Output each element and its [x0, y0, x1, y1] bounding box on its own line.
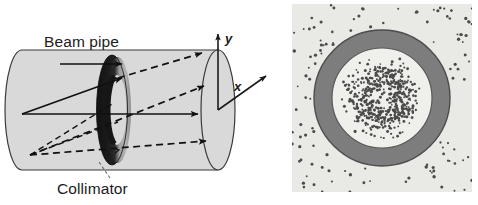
particle-dot	[399, 65, 401, 67]
particle-dot	[397, 125, 399, 127]
particle-dot	[399, 112, 402, 115]
particle-dot	[406, 108, 409, 111]
particle-dot	[392, 100, 395, 103]
particle-dot	[303, 186, 306, 189]
particle-dot	[354, 93, 357, 96]
particle-dot	[403, 91, 405, 93]
particle-dot	[464, 53, 467, 56]
particle-dot	[396, 94, 398, 96]
particle-dot	[369, 180, 371, 182]
particle-dot	[399, 69, 401, 71]
particle-dot	[357, 84, 360, 87]
particle-dot	[457, 68, 460, 71]
particle-dot	[373, 69, 375, 71]
particle-dot	[358, 116, 360, 118]
particle-dot	[320, 40, 322, 42]
particle-dot	[411, 104, 414, 107]
particle-dot	[356, 95, 359, 98]
particle-dot	[353, 18, 355, 20]
particle-dot	[355, 81, 357, 83]
particle-dot	[369, 77, 371, 79]
particle-dot	[391, 117, 393, 119]
particle-dot	[383, 107, 385, 109]
particle-dot	[375, 72, 378, 75]
particle-dot	[457, 38, 460, 41]
particle-dot	[331, 180, 333, 182]
particle-dot	[380, 107, 383, 110]
particle-dot	[396, 98, 398, 100]
particle-dot	[403, 113, 405, 115]
particle-dot	[399, 122, 401, 124]
particle-dot	[387, 83, 389, 85]
particle-dot	[311, 127, 313, 129]
particle-dot	[391, 104, 393, 106]
particle-dot	[371, 116, 373, 118]
particle-dot	[382, 22, 384, 24]
particle-dot	[293, 49, 296, 52]
particle-dot	[363, 81, 365, 83]
particle-dot	[407, 176, 410, 179]
particle-dot	[367, 73, 369, 75]
particle-dot	[385, 110, 387, 112]
particle-dot	[453, 148, 455, 150]
particle-dot	[312, 130, 315, 133]
particle-dot	[408, 106, 410, 108]
particle-dot	[398, 57, 401, 60]
particle-dot	[311, 163, 314, 166]
particle-dot	[367, 123, 369, 125]
particle-dot	[415, 109, 417, 111]
particle-dot	[414, 99, 416, 101]
particle-dot	[382, 73, 384, 75]
particle-dot	[402, 131, 404, 133]
particle-dot	[369, 71, 371, 73]
particle-dot	[414, 95, 417, 98]
particle-dot	[295, 108, 298, 111]
particle-dot	[395, 81, 398, 84]
particle-dot	[325, 153, 328, 156]
particle-dot	[407, 76, 409, 78]
particle-dot	[402, 120, 405, 123]
particle-dot	[432, 170, 435, 173]
particle-dot	[372, 87, 375, 90]
particle-dot	[387, 111, 389, 113]
particle-dot	[343, 105, 346, 108]
particle-dot	[349, 29, 352, 32]
particle-dot	[348, 100, 351, 103]
particle-dot	[320, 43, 323, 46]
particle-dot	[308, 67, 310, 69]
particle-dot	[429, 170, 431, 172]
particle-dot	[351, 90, 353, 92]
particle-dot	[464, 17, 467, 20]
particle-dot	[359, 62, 361, 64]
particle-dot	[387, 109, 389, 111]
particle-dot	[454, 63, 457, 66]
particle-dot	[415, 10, 418, 13]
particle-dot	[439, 141, 441, 143]
particle-dot	[330, 4, 332, 6]
particle-dot	[379, 112, 382, 115]
particle-dot	[372, 101, 374, 103]
particle-dot	[397, 88, 400, 91]
particle-dot	[407, 111, 409, 113]
particle-dot	[426, 21, 429, 24]
particle-dot	[376, 89, 379, 92]
particle-dot	[389, 127, 392, 130]
particle-dot	[396, 91, 398, 93]
particle-dot	[400, 69, 403, 72]
particle-dot	[381, 121, 383, 123]
particle-dot	[360, 99, 362, 101]
particle-dot	[298, 145, 301, 148]
particle-dot	[402, 82, 405, 85]
particle-dot	[400, 72, 402, 74]
particle-dot	[376, 99, 379, 102]
particle-dot	[327, 169, 330, 172]
particle-dot	[384, 121, 386, 123]
particle-dot	[404, 104, 406, 106]
particle-dot	[382, 67, 385, 70]
particle-dot	[402, 63, 404, 65]
particle-dot	[439, 7, 442, 10]
particle-dot	[365, 124, 367, 126]
cross-section-panel	[292, 4, 472, 192]
particle-dot	[297, 85, 299, 87]
particle-dot	[454, 190, 456, 192]
